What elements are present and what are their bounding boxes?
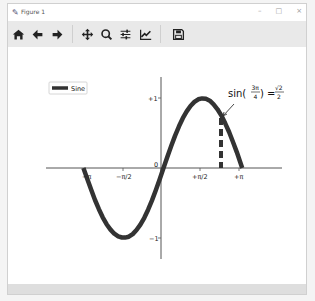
annotation-arrow: [223, 104, 234, 116]
legend-label: Sine: [71, 85, 85, 93]
legend: Sine: [49, 82, 87, 94]
svg-text:+1: +1: [148, 95, 158, 103]
svg-text:√2: √2: [275, 84, 283, 91]
svg-text:sin(: sin(: [228, 88, 246, 99]
status-bar: [8, 284, 306, 294]
svg-text:−1: −1: [149, 235, 159, 243]
svg-text:0: 0: [154, 161, 158, 169]
plot-canvas[interactable]: sin( 3π 4 ) = √2 2 −π −π/2 0 +π/2 +π +1 …: [8, 47, 306, 285]
annotation-label: sin( 3π 4 ) = √2 2: [228, 84, 284, 100]
svg-text:2: 2: [277, 93, 281, 100]
svg-text:−π: −π: [82, 173, 91, 181]
svg-text:3π: 3π: [252, 84, 260, 91]
svg-text:4: 4: [254, 93, 258, 100]
sine-chart: sin( 3π 4 ) = √2 2 −π −π/2 0 +π/2 +π +1 …: [1, 1, 315, 301]
figure-window: ✎ Figure 1 – □ ×: [7, 3, 307, 295]
svg-text:+π/2: +π/2: [192, 173, 208, 181]
svg-text:−π/2: −π/2: [116, 173, 132, 181]
svg-text:) =: ) =: [260, 88, 275, 99]
svg-text:+π: +π: [234, 173, 243, 181]
